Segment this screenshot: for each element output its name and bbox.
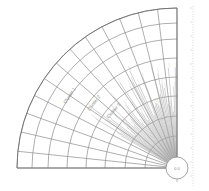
leaf-tip-label-1: ––– xyxy=(173,82,177,87)
leaf-tip-label-3: ––– xyxy=(167,63,171,69)
leaf-tip-label-0: ––– xyxy=(174,62,178,67)
polar-fan-diagram: ––––––––––––––––––––––––––––––––––––––––… xyxy=(0,0,209,191)
leaf-tip-label-5: ––– xyxy=(167,99,172,105)
baseline-label: 0 xyxy=(176,179,178,183)
hub-label: 0.0 xyxy=(174,166,180,171)
figure-root: ––––––––––––––––––––––––––––––––––––––––… xyxy=(0,0,209,191)
leaf-tip-label-2: ––– xyxy=(172,106,176,112)
